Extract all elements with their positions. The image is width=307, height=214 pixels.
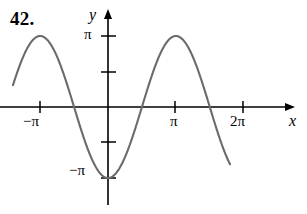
x-axis (0, 103, 295, 111)
y-axis-label: y (89, 6, 96, 24)
y-tick-label-neg-pi: −π (69, 162, 85, 179)
x-tick-label-pi: π (170, 113, 178, 130)
y-tick-label-pi: π (84, 26, 92, 43)
x-axis-label: x (289, 112, 296, 130)
x-tick-label-neg-pi: −π (23, 113, 39, 130)
graph-canvas (0, 0, 307, 214)
x-tick-label-2pi: 2π (230, 113, 245, 130)
